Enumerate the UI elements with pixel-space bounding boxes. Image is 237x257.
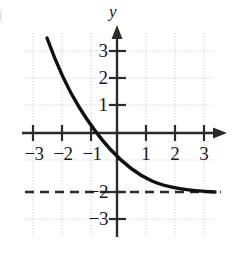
y-tick-label--3: −3 (82, 209, 108, 228)
x-tick-label-3: 3 (196, 144, 212, 163)
x-axis-arrow (213, 128, 227, 139)
y-tick-label--2: −2 (82, 182, 108, 201)
x-tick-label--2: −2 (50, 144, 76, 163)
y-tick-label-1: 1 (92, 95, 108, 114)
y-axis-label: y (109, 3, 117, 20)
x-tick-label--3: −3 (21, 144, 47, 163)
x-tick-label-1: 1 (138, 144, 154, 163)
y-axis-arrow (112, 25, 123, 39)
exponential-curve (47, 38, 215, 192)
y-tick-label-3: 3 (92, 41, 108, 60)
x-tick-label--1: −1 (79, 144, 105, 163)
grid-horizontal-lines (25, 51, 214, 219)
coordinate-plot (0, 0, 237, 257)
y-tick-label-2: 2 (92, 68, 108, 87)
x-tick-label-2: 2 (167, 144, 183, 163)
graph-figure: y −3 −2 −1 1 2 3 3 2 1 −2 −3 (0, 0, 237, 257)
